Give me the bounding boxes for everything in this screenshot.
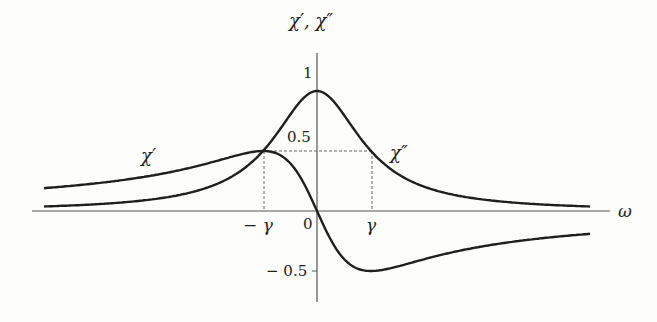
- tick-label-1: 1: [303, 64, 313, 82]
- x-axis-label: ω: [618, 201, 632, 221]
- tick-label-gamma: γ: [366, 215, 376, 235]
- tick-label-0: 0: [303, 215, 313, 233]
- plot-area: [0, 0, 657, 322]
- tick-label-0.5: 0.5: [287, 128, 311, 146]
- tick-label-neg-gamma: − γ: [243, 215, 273, 235]
- dashed-guides: [264, 151, 372, 211]
- y-axis-label: χ′, χ″: [289, 10, 333, 31]
- tick-label-neg-0.5: − 0.5: [266, 262, 307, 280]
- chi-prime-label: χ′: [141, 145, 156, 166]
- chi-double-prime-label: χ″: [390, 142, 408, 163]
